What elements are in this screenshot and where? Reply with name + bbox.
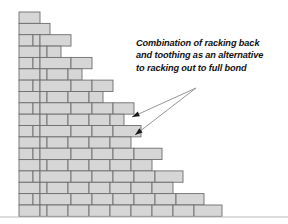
brick (47, 92, 68, 103)
brick (92, 194, 113, 205)
brick-course (19, 205, 222, 216)
wall-diagram (0, 0, 288, 224)
brick (194, 205, 222, 216)
brick (19, 182, 40, 193)
brick (40, 46, 47, 57)
brick (19, 114, 40, 125)
brick (89, 92, 103, 103)
brick (71, 194, 92, 205)
brick-course (19, 171, 183, 182)
brick (33, 126, 40, 137)
brick (68, 137, 89, 148)
brick (33, 103, 40, 114)
brick (33, 80, 40, 91)
brick (40, 126, 71, 137)
brick (19, 126, 33, 137)
brick (40, 194, 71, 205)
brick (19, 92, 40, 103)
brick (131, 160, 152, 171)
brick (33, 57, 40, 68)
brick (19, 69, 40, 80)
brick (40, 57, 71, 68)
brick-course (19, 137, 131, 148)
brick-course (19, 12, 40, 23)
brick (47, 160, 68, 171)
brick (47, 69, 68, 80)
brick (89, 137, 110, 148)
brick (19, 103, 33, 114)
brick (89, 160, 110, 171)
brick (40, 137, 47, 148)
brick (110, 205, 131, 216)
brick (71, 148, 92, 159)
brick (92, 103, 113, 114)
brick (40, 92, 47, 103)
brick-course (19, 80, 113, 91)
brick (40, 182, 47, 193)
brick (92, 126, 113, 137)
brick (68, 205, 89, 216)
brick (40, 205, 47, 216)
brick (110, 137, 131, 148)
brickwork-figure: Combination of racking back and toothing… (0, 0, 288, 224)
brick (134, 148, 162, 159)
brick (89, 114, 110, 125)
brick (40, 114, 47, 125)
brick (19, 171, 33, 182)
brick (19, 160, 40, 171)
brick (47, 137, 68, 148)
brick-course (19, 182, 173, 193)
brick (19, 46, 40, 57)
brick (71, 126, 92, 137)
brick (152, 182, 173, 193)
brick (33, 171, 40, 182)
brick (19, 137, 40, 148)
brick (113, 126, 141, 137)
brick (19, 12, 40, 23)
brick (89, 182, 110, 193)
brick-course (19, 23, 50, 34)
brick-course (19, 57, 92, 68)
brick-course (19, 126, 141, 137)
brick (40, 69, 47, 80)
brick-course (19, 35, 71, 46)
brick (134, 171, 155, 182)
brick (134, 194, 155, 205)
brick (19, 80, 33, 91)
brick (176, 194, 204, 205)
brick (40, 171, 71, 182)
brick-course (19, 92, 103, 103)
brick (47, 114, 68, 125)
annotation-text: Combination of racking back and toothing… (136, 37, 286, 74)
brick-course (19, 103, 134, 114)
brick-course (19, 46, 61, 57)
brick-course (19, 194, 204, 205)
brick (40, 148, 71, 159)
brick (68, 114, 89, 125)
brick (40, 103, 71, 114)
brick (113, 103, 134, 114)
brick (68, 69, 82, 80)
brick (113, 171, 134, 182)
brick (33, 194, 40, 205)
brick (110, 114, 124, 125)
brick (110, 160, 131, 171)
brick-course (19, 114, 124, 125)
brick (19, 194, 33, 205)
brick (47, 205, 68, 216)
brick (131, 205, 152, 216)
brick (19, 148, 33, 159)
brick (71, 80, 92, 91)
brick (68, 182, 89, 193)
brick-course (19, 160, 152, 171)
leader-arrows (132, 88, 196, 135)
brick (92, 148, 113, 159)
brick (152, 205, 173, 216)
brick (131, 182, 152, 193)
brick (89, 205, 110, 216)
brick (47, 182, 68, 193)
brick (92, 171, 113, 182)
brick (33, 148, 40, 159)
brick (92, 80, 113, 91)
brick (40, 35, 71, 46)
